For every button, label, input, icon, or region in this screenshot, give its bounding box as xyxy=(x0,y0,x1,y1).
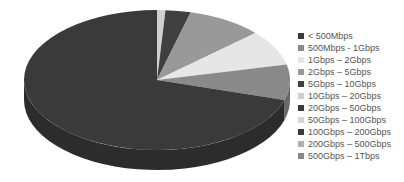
legend-item: 100Gbps – 200Gbps xyxy=(298,126,391,138)
legend-label: 50Gbps – 100Gbps xyxy=(308,115,386,125)
legend-label: 10Gbps – 20Gbps xyxy=(308,91,381,101)
legend-item: 200Gbps – 500Gbps xyxy=(298,138,391,150)
legend-label: 20Gbps – 50Gbps xyxy=(308,103,381,113)
legend-swatch xyxy=(298,141,304,147)
legend-item: 1Gbps – 2Gbps xyxy=(298,54,391,66)
legend-item: < 500Mbps xyxy=(298,30,391,42)
legend-item: 500Mbps - 1Gbps xyxy=(298,42,391,54)
legend-item: 20Gbps – 50Gbps xyxy=(298,102,391,114)
legend: < 500Mbps 500Mbps - 1Gbps 1Gbps – 2Gbps … xyxy=(298,30,391,162)
legend-swatch xyxy=(298,81,304,87)
legend-item: 10Gbps – 20Gbps xyxy=(298,90,391,102)
legend-swatch xyxy=(298,33,304,39)
legend-swatch xyxy=(298,105,304,111)
legend-label: 500Mbps - 1Gbps xyxy=(308,43,380,53)
legend-label: 1Gbps – 2Gbps xyxy=(308,55,371,65)
legend-label: 2Gbps – 5Gbps xyxy=(308,67,371,77)
legend-swatch xyxy=(298,57,304,63)
legend-swatch xyxy=(298,153,304,159)
legend-label: 5Gbps – 10Gbps xyxy=(308,79,376,89)
legend-swatch xyxy=(298,129,304,135)
legend-swatch xyxy=(298,69,304,75)
legend-label: 100Gbps – 200Gbps xyxy=(308,127,391,137)
legend-item: 500Gbps – 1Tbps xyxy=(298,150,391,162)
legend-item: 5Gbps – 10Gbps xyxy=(298,78,391,90)
legend-label: 500Gbps – 1Tbps xyxy=(308,151,380,161)
legend-swatch xyxy=(298,93,304,99)
legend-swatch xyxy=(298,45,304,51)
legend-label: 200Gbps – 500Gbps xyxy=(308,139,391,149)
legend-item: 2Gbps – 5Gbps xyxy=(298,66,391,78)
legend-item: 50Gbps – 100Gbps xyxy=(298,114,391,126)
legend-label: < 500Mbps xyxy=(308,31,353,41)
legend-swatch xyxy=(298,117,304,123)
